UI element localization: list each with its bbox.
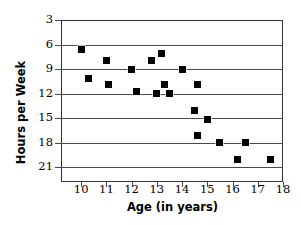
- data-point: [161, 81, 168, 88]
- x-axis-title: Age (in years): [61, 200, 284, 214]
- data-point: [128, 66, 135, 73]
- y-tick-label: 6: [13, 39, 53, 51]
- data-point: [234, 156, 241, 163]
- y-tick-label: 12: [13, 88, 53, 100]
- y-tick-mark: [55, 167, 61, 168]
- y-tick-label: 9: [13, 63, 53, 75]
- scatter-plot-figure: Hours per Week 21181512963 1011121314151…: [0, 0, 301, 225]
- y-tick-label: 15: [13, 112, 53, 124]
- y-tick-mark: [55, 69, 61, 70]
- data-point: [216, 139, 223, 146]
- y-tick-label: 18: [13, 137, 53, 149]
- y-tick-mark: [55, 143, 61, 144]
- data-point: [267, 156, 274, 163]
- gridline: [61, 167, 283, 168]
- y-tick-mark: [55, 20, 61, 21]
- gridline: [61, 143, 283, 144]
- data-point: [105, 81, 112, 88]
- data-point: [194, 132, 201, 139]
- y-tick-label: 21: [13, 161, 53, 173]
- data-point: [148, 57, 155, 64]
- data-point: [103, 57, 110, 64]
- data-point: [78, 46, 85, 53]
- data-point: [85, 75, 92, 82]
- data-point: [158, 50, 165, 57]
- x-tick-label: 18: [268, 184, 298, 196]
- data-point: [133, 88, 140, 95]
- data-point: [191, 107, 198, 114]
- data-point: [242, 139, 249, 146]
- gridline: [61, 69, 283, 70]
- gridline: [61, 118, 283, 119]
- y-tick-mark: [55, 118, 61, 119]
- data-point: [153, 90, 160, 97]
- data-point: [166, 90, 173, 97]
- y-tick-label: 3: [13, 14, 53, 26]
- gridline: [61, 45, 283, 46]
- data-point: [179, 66, 186, 73]
- data-point: [204, 116, 211, 123]
- y-tick-mark: [55, 45, 61, 46]
- y-tick-mark: [55, 94, 61, 95]
- data-point: [194, 81, 201, 88]
